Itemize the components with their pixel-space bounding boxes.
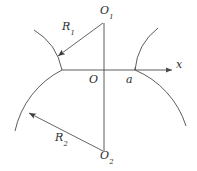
arc-lower-right: [135, 70, 186, 126]
label-axis-x: x: [176, 59, 182, 70]
figure-canvas: [0, 0, 197, 171]
label-center-upper: O1: [100, 5, 113, 19]
arc-upper-right: [135, 28, 158, 70]
label-radius-upper: R1: [62, 21, 75, 35]
label-point-a: a: [126, 74, 133, 85]
label-origin: O: [89, 74, 98, 85]
arc-lower-left: [15, 70, 62, 131]
label-center-lower: O2: [100, 150, 113, 164]
label-radius-lower: R2: [55, 132, 68, 146]
arc-upper-left: [34, 30, 62, 70]
geometry-figure: O1 O2 O a x R1 R2: [0, 0, 197, 171]
